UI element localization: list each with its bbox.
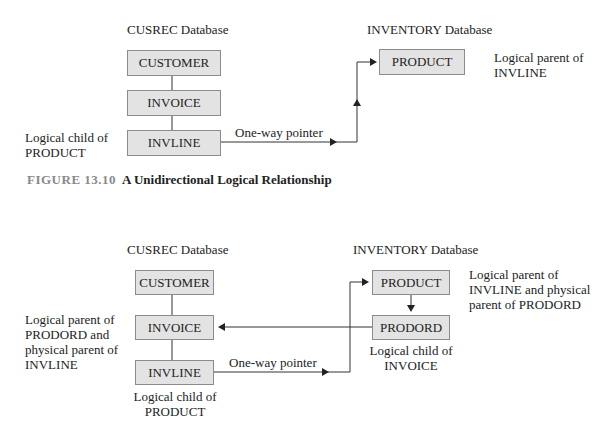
arrow-right-icon: [370, 58, 377, 66]
arrow-right-icon: [330, 138, 337, 146]
arrow-right-icon: [362, 278, 369, 286]
connector-lines: [0, 0, 609, 432]
arrow-left-icon: [218, 323, 225, 331]
arrow-right-icon: [322, 368, 329, 376]
arrow-down-icon: [407, 305, 415, 312]
arrow-up-icon: [353, 99, 361, 106]
